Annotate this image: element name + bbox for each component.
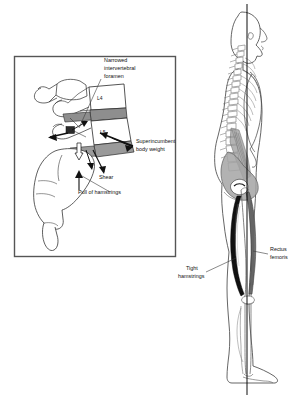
knee-joint [242,296,255,304]
vertebra-l4-body [89,84,126,110]
acetabulum [231,179,249,194]
narrowed-foramen-label-line3: foramen [104,73,124,79]
lumbosacral-detail-panel: L4 L5 S1 [15,57,176,257]
rectus-femoris-label-line2: femoris [270,254,288,260]
superincumbent-label-line1: Superincumbent [136,138,176,144]
vertebra-l5-body [91,118,131,145]
tight-hamstrings-label-line1: Tight [186,265,198,271]
vertebra-label-l4: L4 [97,95,103,101]
shear-label: Shear [99,174,114,180]
narrowed-foramen-label-line1: Narrowed [104,57,127,63]
disc-l4-l5-posterior [63,112,91,122]
anatomical-illustration: L4 L5 S1 [0,0,299,399]
narrowed-foramen-marker [66,127,75,134]
superincumbent-label-line2: body weight [136,146,165,152]
pull-of-hamstrings-label: Pull of hamstrings [78,189,121,195]
rectus-femoris-label-line1: Rectus [270,246,287,252]
narrowed-foramen-label-line2: intervertebral [104,65,135,71]
tight-hamstrings-label-line2: hamstrings [178,273,205,279]
